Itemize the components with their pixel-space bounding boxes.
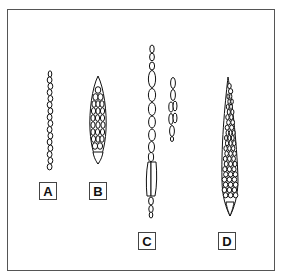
ray-cell [227, 120, 231, 125]
ray-cell [173, 113, 177, 123]
ray-cell [170, 137, 173, 142]
ray-cell [47, 77, 52, 83]
ray-cell [233, 182, 238, 187]
label-d: D [218, 232, 236, 250]
ray-cell [227, 94, 229, 99]
ray-cell [233, 141, 236, 146]
ray-cell [229, 141, 232, 146]
ray-cell [231, 120, 235, 125]
ray-cell [146, 162, 151, 196]
ray-cell [95, 115, 99, 122]
ray-cell [226, 202, 234, 216]
ray-cell [48, 83, 53, 89]
ray-cell [231, 135, 234, 140]
ray-cell [100, 136, 104, 143]
ray-cell [48, 133, 53, 139]
ray-cell [233, 193, 238, 198]
ray-cell [171, 78, 176, 89]
ray-cell [231, 99, 234, 104]
ray-cell [229, 151, 233, 156]
ray-cell [226, 130, 229, 135]
ray-cell [98, 94, 103, 101]
ray-cell [228, 135, 231, 140]
ray-cell [233, 172, 237, 177]
ray-cell [228, 99, 231, 104]
ray-cell [101, 122, 105, 129]
ray-a-drawing [47, 71, 53, 170]
ray-cell [91, 122, 95, 129]
ray-cell [100, 108, 104, 115]
ray-cell [91, 115, 95, 122]
ray-cell [225, 135, 228, 140]
ray-cell [150, 53, 155, 61]
ray-cell [228, 146, 231, 151]
ray-cell [227, 177, 232, 182]
ray-cell [223, 182, 228, 187]
ray-cell [91, 108, 95, 115]
ray-cell [148, 71, 155, 88]
ray-d-drawing [222, 77, 238, 216]
ray-cell [151, 162, 157, 196]
ray-cell [228, 172, 232, 177]
ray-cell [100, 115, 104, 122]
ray-cell [233, 151, 237, 156]
ray-cell [225, 125, 229, 130]
ray-cell [95, 87, 101, 94]
ray-cell [97, 143, 102, 150]
ray-cell [232, 177, 237, 182]
ray-c-secondary-drawing [169, 78, 177, 142]
ray-cell [230, 115, 233, 120]
ray-cell [224, 146, 227, 151]
ray-cell [148, 153, 153, 162]
ray-cell [222, 187, 227, 192]
ray-cell [149, 142, 155, 153]
ray-cell [228, 83, 232, 88]
ray-cell [48, 71, 52, 77]
ray-cell [47, 127, 52, 133]
ray-cell [96, 108, 100, 115]
ray-cell [148, 103, 155, 116]
ray-cell [48, 96, 53, 102]
ray-cell [227, 167, 231, 172]
ray-cell [149, 197, 154, 205]
ray-cell [228, 156, 232, 161]
ray-cell [149, 212, 153, 218]
ray-cell [47, 102, 52, 108]
ray-cell [224, 172, 228, 177]
ray-cell [47, 89, 52, 95]
ray-cell [223, 156, 227, 161]
ray-cell [226, 115, 229, 120]
ray-cell [47, 164, 52, 170]
ray-cell [227, 187, 232, 192]
ray-cell [171, 90, 176, 101]
ray-cell [228, 193, 233, 198]
ray-cell [100, 101, 104, 108]
ray-cell [149, 62, 154, 70]
ray-cell [47, 114, 52, 120]
ray-cell [232, 156, 236, 161]
ray-cell [231, 146, 234, 151]
ray-cell [91, 129, 95, 136]
ray-cell [230, 125, 234, 130]
ray-cell [232, 167, 236, 172]
ray-cell [223, 167, 227, 172]
ray-cell [226, 104, 229, 109]
ray-cell [149, 116, 156, 128]
ray-cell [225, 151, 229, 156]
ray-cell [48, 108, 53, 114]
ray-cell [232, 130, 235, 135]
ray-cell [92, 143, 97, 150]
label-c: C [138, 232, 156, 250]
ray-cell [93, 94, 98, 101]
ray-cell [224, 161, 228, 166]
ray-cell [150, 45, 154, 53]
ray-cell [95, 129, 99, 136]
ray-cell [229, 161, 233, 166]
ray-c-drawing [146, 45, 156, 218]
ray-cell [228, 89, 232, 94]
ray-cell [173, 101, 177, 111]
label-a: A [39, 182, 57, 200]
ray-cell [228, 182, 233, 187]
label-b: B [89, 182, 107, 200]
ray-cell [170, 126, 175, 137]
